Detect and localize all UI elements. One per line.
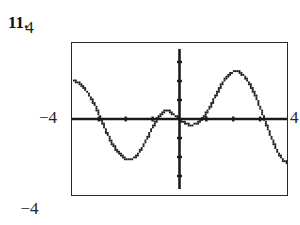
curve-pixel [225,78,227,80]
curve-pixel [73,80,75,82]
curve-pixel [205,111,207,113]
curve-pixel [139,151,141,153]
curve-pixel [250,87,252,89]
curve-pixel [216,95,218,97]
curve-pixel [158,115,160,117]
curve-pixel [248,83,250,85]
curve-pixel [220,85,222,87]
curve-pixel [141,147,143,149]
curve-pixel [210,102,212,104]
curve-pixel [220,83,222,85]
curve-pixel [272,143,274,145]
curve-pixel [267,126,269,128]
curve-pixel [265,125,267,127]
curve-pixel [139,149,141,151]
curve-pixel [144,141,146,143]
figure-root: 11. 4 −4 4 −4 [0,0,300,225]
curve-pixel [280,156,282,158]
curve-pixel [239,70,241,72]
curve-pixel [182,121,184,123]
curve-pixel [163,111,165,113]
curve-pixel [261,111,263,113]
curve-pixel [180,121,182,123]
curve-pixel [131,158,133,160]
curve-pixel [207,111,209,113]
curve-pixel [112,143,114,145]
curve-pixel [114,147,116,149]
curve-pixel [97,113,99,115]
curve-pixel [80,83,82,85]
curve-pixel [156,121,158,123]
curve-pixel [224,78,226,80]
curve-pixel [267,125,269,127]
curve-pixel [218,89,220,91]
curve-pixel [144,140,146,142]
curve-pixel [235,70,237,72]
curve-pixel [148,134,150,136]
curve-pixel [101,119,103,121]
curve-pixel [109,138,111,140]
curve-pixel [252,91,254,93]
curve-pixel [176,117,178,119]
curve-pixel [267,128,269,130]
curve-pixel [239,72,241,74]
window-ymin-label: −4 [0,199,180,218]
curve-pixel [188,123,190,125]
curve-pixel [188,125,190,127]
curve-pixel [84,89,86,91]
curve-pixel [173,113,175,115]
curve-pixel [101,121,103,123]
curve-pixel [103,126,105,128]
curve-pixel [282,160,284,162]
curve-pixel [205,115,207,117]
curve-pixel [214,96,216,98]
curve-pixel [97,110,99,112]
curve-pixel [88,95,90,97]
graph-plot [72,43,287,195]
curve-pixel [96,110,98,112]
curve-pixel [111,143,113,145]
curve-pixel [180,119,182,121]
curve-pixel [254,95,256,97]
curve-pixel [190,125,192,127]
curve-pixel [161,113,163,115]
curve-pixel [276,149,278,151]
curve-pixel [195,123,197,125]
curve-pixel [263,117,265,119]
curve-pixel [101,123,103,125]
curve-pixel [207,110,209,112]
curve-pixel [148,136,150,138]
curve-pixel [252,89,254,91]
curve-pixel [210,104,212,106]
curve-pixel [178,117,180,119]
curve-pixel [75,80,77,82]
curve-pixel [208,106,210,108]
curve-pixel [169,111,171,113]
curve-pixel [274,147,276,149]
curve-pixel [103,123,105,125]
curve-pixel [186,123,188,125]
curve-pixel [122,156,124,158]
curve-pixel [82,85,84,87]
curve-pixel [92,100,94,102]
curve-pixel [154,125,156,127]
curve-pixel [107,134,109,136]
curve-pixel [97,111,99,113]
curve-pixel [84,87,86,89]
window-xmax-label: 4 [290,108,299,127]
curve-pixel [105,128,107,130]
curve-pixel [265,121,267,123]
curve-pixel [240,72,242,74]
curve-pixel [114,149,116,151]
curve-pixel [75,81,77,83]
curve-pixel [269,132,271,134]
curve-pixel [124,156,126,158]
curve-pixel [274,143,276,145]
curve-pixel [160,115,162,117]
curve-pixel [252,87,254,89]
curve-pixel [105,130,107,132]
curve-pixel [161,111,163,113]
curve-pixel [256,95,258,97]
curve-pixel [212,102,214,104]
curve-pixel [152,126,154,128]
